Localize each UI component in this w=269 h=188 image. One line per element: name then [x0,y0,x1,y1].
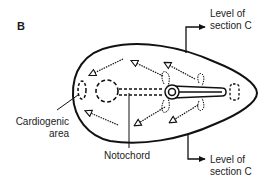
label-line: Level of [210,8,252,20]
label-line: Cardiogenic [13,116,69,128]
label-line: section C [210,20,252,32]
cardiogenic-area-shape [78,81,86,99]
label-line: area [13,128,69,140]
cardiogenic-area-label: Cardiogenic area [13,116,69,140]
label-line: Level of [210,154,252,166]
prechordal-plate-shape [96,80,118,102]
section-level-bottom-label: Level of section C [210,154,252,178]
cloacal-membrane-shape [230,84,239,100]
label-line: section C [210,166,252,178]
section-level-top-label: Level of section C [210,8,252,32]
primitive-node-shape [165,85,179,99]
notochord-label: Notochord [104,150,150,162]
